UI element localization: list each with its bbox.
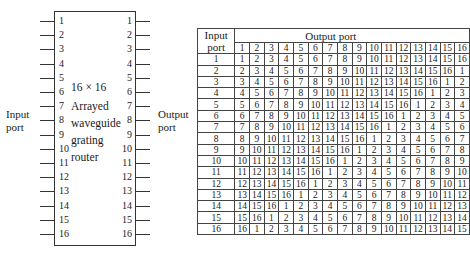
output-port-cell: 16: [323, 155, 338, 166]
output-port-cell: 11: [411, 212, 426, 223]
output-port-cell: 2: [279, 212, 294, 223]
output-port-cell: 13: [411, 54, 426, 65]
output-port-cell: 11: [235, 167, 250, 178]
output-port-cell: 1: [308, 178, 323, 189]
output-port-cell: 9: [308, 88, 323, 99]
output-port-cell: 13: [264, 167, 279, 178]
input-port-cell: 11: [198, 167, 235, 178]
input-port-number: 4: [59, 59, 64, 69]
output-port-cell: 6: [425, 144, 440, 155]
input-port-label-line-2: port: [6, 121, 24, 134]
input-port-lead: [40, 177, 54, 178]
output-port-cell: 13: [352, 99, 367, 110]
output-port-cell: 9: [455, 155, 470, 166]
input-port-lead: [40, 35, 54, 36]
output-port-cell: 8: [308, 76, 323, 87]
output-port-cell: 3: [323, 189, 338, 200]
output-port-cell: 2: [381, 133, 396, 144]
output-port-cell: 16: [337, 144, 352, 155]
output-port-number: 7: [116, 101, 132, 111]
output-port-cell: 3: [235, 76, 250, 87]
output-port-cell: 6: [352, 201, 367, 212]
output-port-cell: 5: [323, 212, 338, 223]
output-port-cell: 9: [367, 223, 382, 234]
output-port-cell: 16: [308, 167, 323, 178]
output-port-cell: 10: [308, 99, 323, 110]
input-port-lead: [40, 120, 54, 121]
input-port-lead: [40, 191, 54, 192]
output-port-cell: 3: [293, 212, 308, 223]
output-port-cell: 9: [323, 76, 338, 87]
output-port-cell: 4: [250, 76, 265, 87]
table-row: 1515161234567891011121314: [198, 212, 470, 223]
output-column-header: 14: [425, 43, 440, 54]
output-port-cell: 7: [337, 223, 352, 234]
input-port-cell: 5: [198, 99, 235, 110]
output-port-cell: 15: [367, 110, 382, 121]
router-type-line-2: waveguide: [71, 117, 121, 130]
input-port-lead: [40, 206, 54, 207]
output-port-cell: 3: [264, 54, 279, 65]
output-port-cell: 3: [455, 88, 470, 99]
output-port-cell: 14: [455, 212, 470, 223]
input-port-cell: 7: [198, 122, 235, 133]
output-port-lead: [136, 120, 150, 121]
output-port-cell: 5: [264, 76, 279, 87]
output-port-cell: 12: [235, 178, 250, 189]
output-port-cell: 3: [440, 99, 455, 110]
output-port-lead: [136, 220, 150, 221]
output-port-cell: 4: [235, 88, 250, 99]
output-port-cell: 12: [396, 54, 411, 65]
output-port-cell: 10: [425, 189, 440, 200]
output-port-cell: 9: [264, 122, 279, 133]
input-port-lead: [40, 106, 54, 107]
input-port-number: 12: [59, 172, 69, 182]
output-port-number: 16: [116, 229, 132, 239]
output-column-header: 15: [440, 43, 455, 54]
output-port-cell: 1: [411, 99, 426, 110]
input-port-number: 16: [59, 229, 69, 239]
input-port-number: 8: [59, 115, 64, 125]
output-column-header: 9: [352, 43, 367, 54]
output-port-cell: 3: [411, 122, 426, 133]
router-type-line-1: Arrayed: [71, 100, 109, 113]
output-port-cell: 8: [293, 88, 308, 99]
output-port-cell: 15: [396, 88, 411, 99]
output-port-cell: 8: [352, 223, 367, 234]
output-column-header: 2: [250, 43, 265, 54]
input-port-cell: 9: [198, 144, 235, 155]
output-port-cell: 16: [235, 223, 250, 234]
table-row: 778910111213141516123456: [198, 122, 470, 133]
output-port-cell: 3: [381, 144, 396, 155]
input-port-header-line-1: Input: [205, 29, 228, 41]
output-port-number: 12: [116, 172, 132, 182]
table-row: 445678910111213141516123: [198, 88, 470, 99]
output-port-cell: 10: [264, 133, 279, 144]
output-column-header: 7: [323, 43, 338, 54]
output-port-cell: 16: [425, 76, 440, 87]
output-port-number: 2: [116, 30, 132, 40]
output-port-cell: 6: [264, 88, 279, 99]
output-port-cell: 14: [235, 201, 250, 212]
output-port-cell: 8: [279, 99, 294, 110]
output-port-cell: 15: [337, 133, 352, 144]
input-port-lead: [40, 49, 54, 50]
output-port-cell: 16: [411, 88, 426, 99]
output-port-lead: [136, 149, 150, 150]
output-port-cell: 14: [264, 178, 279, 189]
output-port-lead: [136, 78, 150, 79]
input-port-number: 15: [59, 215, 69, 225]
input-port-cell: 3: [198, 76, 235, 87]
output-port-cell: 1: [381, 122, 396, 133]
output-port-cell: 6: [293, 65, 308, 76]
output-port-number: 9: [116, 130, 132, 140]
output-port-cell: 14: [367, 99, 382, 110]
input-port-number: 5: [59, 73, 64, 83]
output-port-cell: 13: [250, 178, 265, 189]
output-port-cell: 14: [293, 155, 308, 166]
output-port-cell: 7: [308, 65, 323, 76]
output-port-cell: 5: [279, 65, 294, 76]
output-port-cell: 13: [440, 212, 455, 223]
input-port-number: 7: [59, 101, 64, 111]
output-port-cell: 10: [367, 54, 382, 65]
